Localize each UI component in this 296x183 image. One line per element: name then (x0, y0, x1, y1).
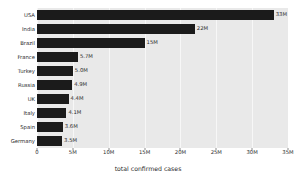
y-axis-label-india: India (1, 22, 35, 36)
bar-row[interactable]: 5.7M (37, 50, 288, 64)
x-tick-mark (180, 148, 181, 150)
bar-value-label: 3.6M (63, 121, 78, 132)
bar-row[interactable]: 15M (37, 36, 288, 50)
bar[interactable] (37, 38, 145, 48)
y-axis-label-germany: Germany (1, 134, 35, 148)
bar-row[interactable]: 33M (37, 8, 288, 22)
y-axis-label-spain: Spain (1, 120, 35, 134)
x-tick-mark (216, 148, 217, 150)
y-axis-label-france: France (1, 50, 35, 64)
bar-row[interactable]: 4.9M (37, 78, 288, 92)
bar[interactable] (37, 122, 63, 132)
x-axis-tick-labels: 05M10M15M20M25M30M35M (37, 149, 288, 161)
bar[interactable] (37, 136, 62, 146)
y-axis-category-labels: USAIndiaBrazilFranceTurkeyRussiaUKItalyS… (0, 8, 35, 148)
bar-row[interactable]: 3.6M (37, 120, 288, 134)
x-tick-mark (37, 148, 38, 150)
bar[interactable] (37, 66, 73, 76)
x-tick-mark (288, 148, 289, 150)
bar-value-label: 15M (145, 37, 158, 48)
plot-area: 33M22M15M5.7M5.0M4.9M4.4M4.1M3.6M3.5M (37, 8, 288, 148)
bar-value-label: 4.9M (72, 79, 87, 90)
x-axis-title: total confirmed cases (0, 165, 296, 172)
bar-row[interactable]: 4.1M (37, 106, 288, 120)
y-axis-label-usa: USA (1, 8, 35, 22)
y-axis-label-russia: Russia (1, 78, 35, 92)
bar-value-label: 22M (195, 23, 208, 34)
bar-value-label: 3.5M (62, 135, 77, 146)
bar-value-label: 33M (274, 9, 287, 20)
bar-value-label: 5.0M (73, 65, 88, 76)
x-tick-mark (144, 148, 145, 150)
bar[interactable] (37, 108, 66, 118)
bar[interactable] (37, 24, 195, 34)
bar-row[interactable]: 3.5M (37, 134, 288, 148)
bar[interactable] (37, 10, 274, 20)
bar-row[interactable]: 4.4M (37, 92, 288, 106)
y-axis-label-brazil: Brazil (1, 36, 35, 50)
bar[interactable] (37, 52, 78, 62)
bar[interactable] (37, 80, 72, 90)
bar-value-label: 4.4M (69, 93, 84, 104)
y-axis-label-italy: Italy (1, 106, 35, 120)
bar-row[interactable]: 5.0M (37, 64, 288, 78)
bar-value-label: 4.1M (66, 107, 81, 118)
bar[interactable] (37, 94, 69, 104)
bar-row[interactable]: 22M (37, 22, 288, 36)
x-tick-mark (72, 148, 73, 150)
x-tick-mark (252, 148, 253, 150)
x-tick-mark (108, 148, 109, 150)
bar-value-label: 5.7M (78, 51, 93, 62)
chart-figure: USAIndiaBrazilFranceTurkeyRussiaUKItalyS… (0, 0, 296, 183)
y-axis-label-turkey: Turkey (1, 64, 35, 78)
y-axis-label-uk: UK (1, 92, 35, 106)
